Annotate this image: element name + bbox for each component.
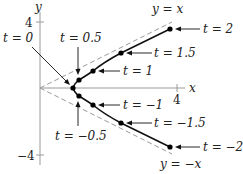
hyperbola-diagram: y x 4 −4 4 y = x y = −x t = 2 t = 1.5 t … — [0, 0, 243, 174]
label-t-neg2: t = −2 — [203, 140, 243, 154]
label-t-1: t = 1 — [123, 64, 153, 78]
label-t-0: t = 0 — [3, 31, 34, 45]
x-axis-label: x — [189, 81, 196, 95]
label-t-neg1: t = −1 — [123, 98, 163, 112]
point-t-0.5 — [76, 77, 81, 82]
label-t-neg1.5: t = −1.5 — [154, 116, 206, 130]
diagram-canvas: y x 4 −4 4 y = x y = −x t = 2 t = 1.5 t … — [0, 0, 243, 174]
x-tick-label: 4 — [173, 93, 181, 107]
point-t-neg0.5 — [76, 93, 81, 98]
arrowhead-icon — [98, 69, 104, 74]
arrowhead-icon — [126, 51, 132, 56]
asymptote-upper-label: y = x — [151, 2, 183, 16]
point-t-neg2 — [167, 144, 172, 149]
label-t-neg0.5: t = −0.5 — [55, 129, 107, 143]
point-t-2 — [167, 26, 172, 31]
label-t-2: t = 2 — [203, 22, 233, 36]
arrow-t-0 — [32, 47, 68, 83]
arrowhead-icon — [175, 27, 181, 32]
y-tick-bottom-label: −4 — [17, 149, 35, 163]
point-t-neg1 — [90, 102, 95, 107]
arrowhead-icon — [76, 101, 81, 107]
arrowhead-icon — [76, 69, 81, 75]
y-axis-label: y — [34, 0, 42, 14]
y-tick-top-label: 4 — [25, 16, 33, 30]
point-t-0 — [70, 85, 75, 90]
label-t-0.5: t = 0.5 — [60, 31, 102, 45]
point-t-neg1.5 — [118, 120, 123, 125]
point-t-1 — [90, 68, 95, 73]
arrowhead-icon — [175, 145, 181, 150]
point-t-1.5 — [118, 50, 123, 55]
asymptote-lower-label: y = −x — [159, 157, 202, 171]
arrowhead-icon — [126, 121, 132, 126]
label-t-1.5: t = 1.5 — [154, 46, 196, 60]
arrowhead-icon — [98, 103, 104, 108]
